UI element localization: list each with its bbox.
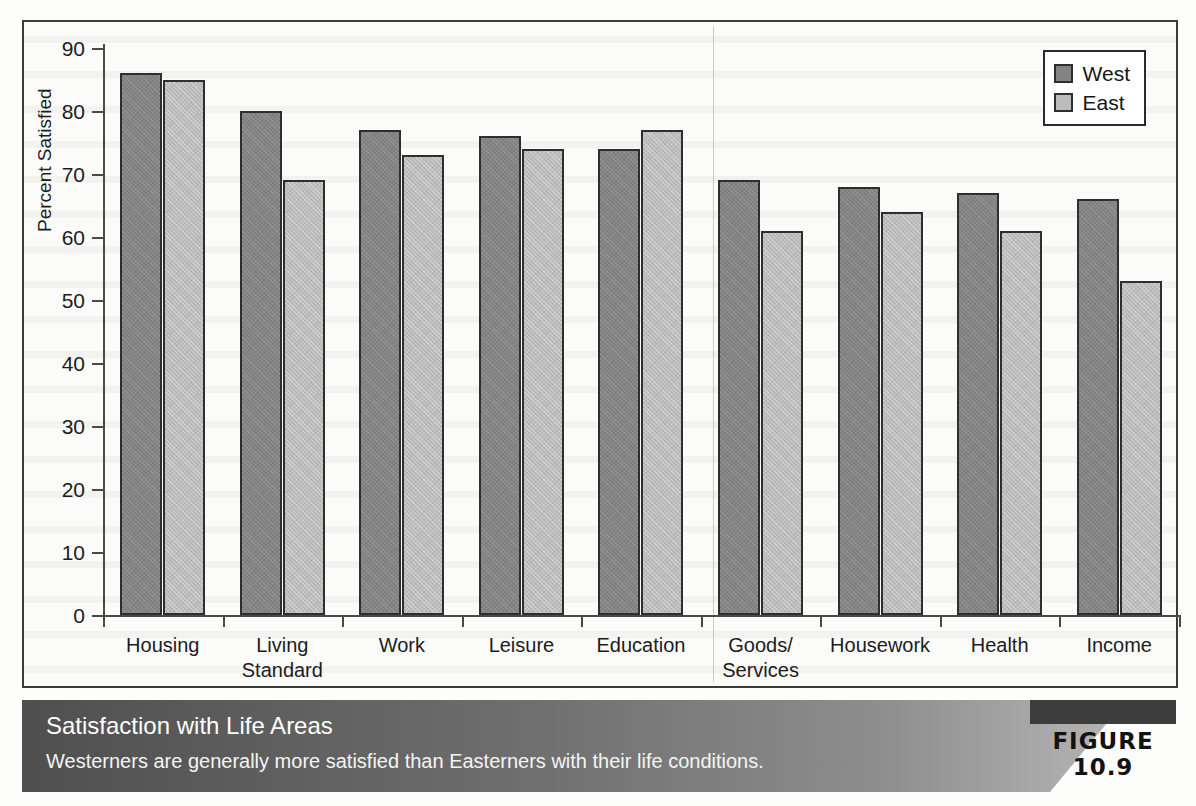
y-tick: 0 [92, 615, 103, 617]
y-tick: 20 [92, 489, 103, 491]
y-axis-title: Percent Satisfied [34, 88, 56, 232]
y-tick-label: 20 [62, 478, 85, 502]
category-label-line: Work [342, 633, 462, 658]
x-tick [342, 615, 344, 627]
bar-east-9 [1120, 281, 1162, 615]
bar-west-6 [718, 180, 760, 615]
y-tick-label: 90 [62, 37, 85, 61]
y-tick-label: 0 [73, 604, 85, 628]
category-label-4: Leisure [462, 633, 582, 658]
bar-group [581, 48, 701, 615]
category-label-line: Standard [223, 658, 343, 683]
x-tick [1179, 615, 1181, 627]
bar-east-4 [522, 149, 564, 615]
bar-group [820, 48, 940, 615]
bar-west-4 [479, 136, 521, 615]
bar-east-1 [163, 80, 205, 616]
category-label-line: Income [1059, 633, 1179, 658]
x-tick [1059, 615, 1061, 627]
bar-east-6 [761, 231, 803, 615]
bar-east-8 [1000, 231, 1042, 615]
bar-group [940, 48, 1060, 615]
category-label-8: Health [940, 633, 1060, 658]
figure-caption: Satisfaction with Life Areas Westerners … [22, 700, 1178, 792]
y-tick: 80 [92, 111, 103, 113]
y-tick-label: 10 [62, 541, 85, 565]
x-tick [103, 615, 105, 627]
category-label-line: Housework [820, 633, 940, 658]
y-tick: 90 [92, 48, 103, 50]
x-axis-line [103, 615, 1179, 617]
bar-east-3 [402, 155, 444, 615]
legend-item-east: East [1054, 88, 1130, 117]
y-tick-label: 80 [62, 100, 85, 124]
y-tick: 60 [92, 237, 103, 239]
y-tick-label: 70 [62, 163, 85, 187]
bar-west-2 [240, 111, 282, 615]
figure-badge-block [1030, 700, 1176, 724]
figure-page: Percent Satisfied 9080706050403020100 Ho… [0, 0, 1196, 806]
legend-label-west: West [1083, 62, 1130, 86]
figure-badge-label: FIGURE 10.9 [1030, 728, 1176, 780]
plot-area: 9080706050403020100 HousingLivingStandar… [103, 48, 1179, 615]
category-label-5: Education [581, 633, 701, 658]
y-tick: 30 [92, 426, 103, 428]
bar-west-5 [598, 149, 640, 615]
bar-west-8 [957, 193, 999, 615]
bar-group [462, 48, 582, 615]
x-tick [581, 615, 583, 627]
legend-label-east: East [1083, 91, 1125, 115]
chart-frame: Percent Satisfied 9080706050403020100 Ho… [22, 20, 1178, 688]
caption-subtitle: Westerners are generally more satisfied … [46, 750, 764, 773]
bar-group [1059, 48, 1179, 615]
y-tick: 50 [92, 300, 103, 302]
bar-west-3 [359, 130, 401, 615]
category-label-7: Housework [820, 633, 940, 658]
bar-group [701, 48, 821, 615]
y-tick: 40 [92, 363, 103, 365]
category-label-9: Income [1059, 633, 1179, 658]
category-label-3: Work [342, 633, 462, 658]
category-label-line: Health [940, 633, 1060, 658]
category-label-line: Goods/ [701, 633, 821, 658]
bar-west-1 [120, 73, 162, 615]
bar-east-5 [641, 130, 683, 615]
category-label-line: Housing [103, 633, 223, 658]
y-tick-label: 60 [62, 226, 85, 250]
y-tick: 70 [92, 174, 103, 176]
legend-swatch-east-icon [1054, 93, 1073, 112]
bar-group [103, 48, 223, 615]
category-label-1: Housing [103, 633, 223, 658]
bar-group [223, 48, 343, 615]
x-tick [820, 615, 822, 627]
legend-swatch-west-icon [1054, 64, 1073, 83]
legend-item-west: West [1054, 59, 1130, 88]
category-label-6: Goods/Services [701, 633, 821, 683]
category-label-line: Leisure [462, 633, 582, 658]
y-tick-label: 50 [62, 289, 85, 313]
x-tick [940, 615, 942, 627]
bar-east-2 [283, 180, 325, 615]
y-tick: 10 [92, 552, 103, 554]
y-tick-label: 30 [62, 415, 85, 439]
x-tick [462, 615, 464, 627]
category-label-2: LivingStandard [223, 633, 343, 683]
x-tick [701, 615, 703, 627]
bar-group [342, 48, 462, 615]
category-label-line: Living [223, 633, 343, 658]
chart-legend: West East [1043, 50, 1146, 126]
bar-east-7 [881, 212, 923, 615]
x-tick [223, 615, 225, 627]
bar-west-9 [1077, 199, 1119, 615]
category-label-line: Education [581, 633, 701, 658]
category-label-line: Services [701, 658, 821, 683]
caption-title: Satisfaction with Life Areas [46, 712, 333, 740]
y-tick-label: 40 [62, 352, 85, 376]
bar-west-7 [838, 187, 880, 615]
